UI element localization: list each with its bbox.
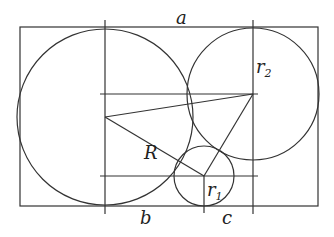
segment-r1-to-r2 [204,94,253,176]
outer-rectangle [20,27,318,206]
label-r1: r1 [207,179,223,203]
label-r2: r2 [256,56,272,80]
segment-R-to-r2 [105,94,253,117]
label-R: R [143,142,158,163]
geometry-diagram: a R b c r2 r1 [0,0,334,237]
label-a: a [176,7,187,28]
label-c: c [222,207,232,228]
label-b: b [140,207,152,228]
